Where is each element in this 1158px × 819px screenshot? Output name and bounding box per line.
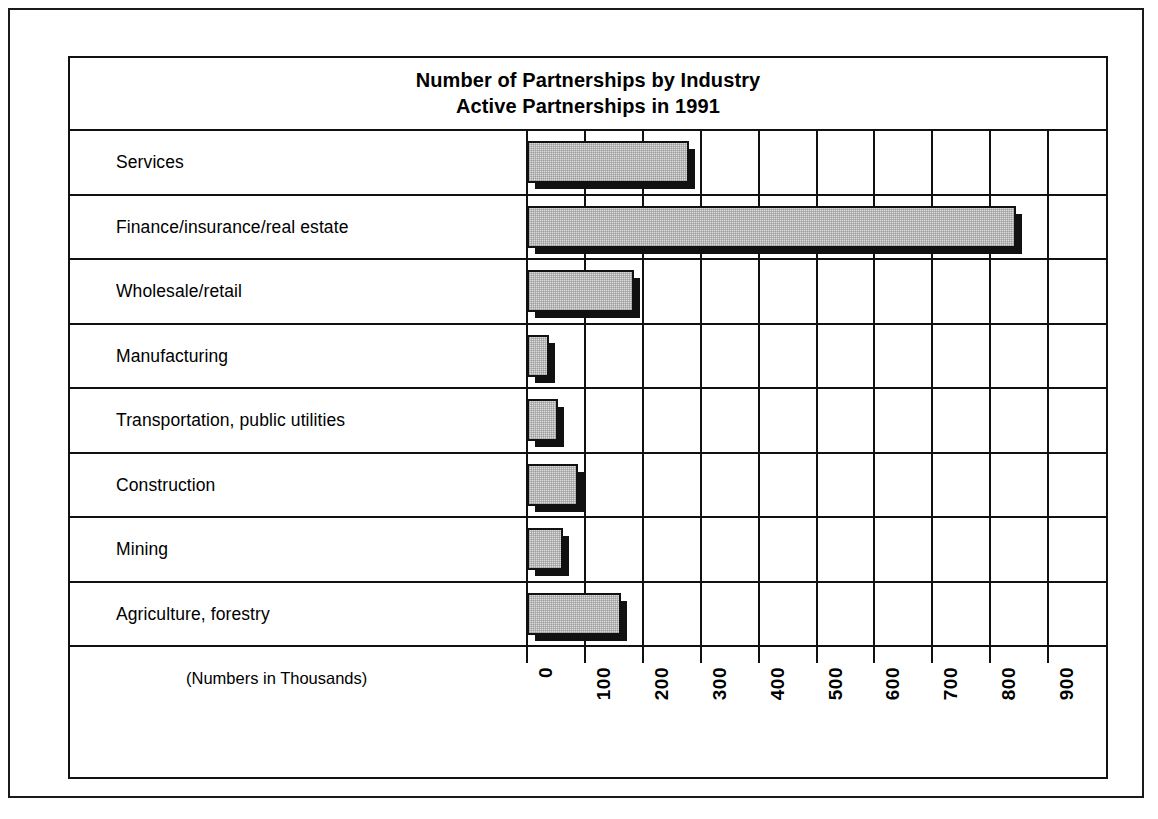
category-label: Manufacturing <box>116 345 228 366</box>
tick-label: 100 <box>593 667 615 700</box>
tick-mark <box>816 647 818 663</box>
tick-mark <box>526 647 528 663</box>
tick-label: 900 <box>1056 667 1078 700</box>
category-label: Finance/insurance/real estate <box>116 216 348 237</box>
page-border: Number of Partnerships by Industry Activ… <box>8 8 1144 798</box>
tick-mark <box>873 647 875 663</box>
tick-mark <box>758 647 760 663</box>
tick-mark <box>584 647 586 663</box>
category-label: Agriculture, forestry <box>116 603 270 624</box>
tick-label: 700 <box>940 667 962 700</box>
chart-page: Number of Partnerships by Industry Activ… <box>0 0 1158 819</box>
tick-label: 400 <box>767 667 789 700</box>
tick-mark <box>989 647 991 663</box>
chart-title-band: Number of Partnerships by Industry Activ… <box>70 58 1106 131</box>
tick-mark <box>931 647 933 663</box>
tick-label: 200 <box>651 667 673 700</box>
tick-mark <box>1047 647 1049 663</box>
tick-label: 300 <box>709 667 731 700</box>
category-label: Construction <box>116 474 215 495</box>
category-row: Construction <box>70 454 1106 519</box>
plot-region: ServicesFinance/insurance/real estateWho… <box>70 131 1106 647</box>
category-row: Wholesale/retail <box>70 260 1106 325</box>
chart-title: Number of Partnerships by Industry <box>416 68 761 94</box>
category-label: Services <box>116 152 184 173</box>
category-row: Transportation, public utilities <box>70 389 1106 454</box>
tick-label: 800 <box>998 667 1020 700</box>
category-row: Agriculture, forestry <box>70 583 1106 648</box>
category-row: Finance/insurance/real estate <box>70 196 1106 261</box>
chart-subtitle: Active Partnerships in 1991 <box>456 94 720 120</box>
category-row: Mining <box>70 518 1106 583</box>
tick-label: 500 <box>825 667 847 700</box>
chart-frame: Number of Partnerships by Industry Activ… <box>68 56 1108 779</box>
category-label: Mining <box>116 539 168 560</box>
tick-mark <box>700 647 702 663</box>
category-row: Services <box>70 131 1106 196</box>
tick-label: 600 <box>882 667 904 700</box>
category-label: Transportation, public utilities <box>116 410 345 431</box>
category-row: Manufacturing <box>70 325 1106 390</box>
x-axis: (Numbers in Thousands) 01002003004005006… <box>70 647 1106 777</box>
tick-label: 0 <box>535 667 557 678</box>
tick-mark <box>642 647 644 663</box>
axis-units-label: (Numbers in Thousands) <box>186 669 367 688</box>
category-label: Wholesale/retail <box>116 281 242 302</box>
